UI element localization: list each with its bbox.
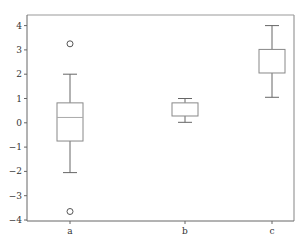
box-iqr [259, 49, 285, 73]
y-tick-label: 2 [16, 69, 22, 79]
y-tick-label: 0 [16, 118, 22, 128]
y-axis: −4−3−2−101234 [9, 21, 27, 225]
y-tick-label: −1 [9, 142, 22, 152]
y-tick-label: −3 [9, 191, 23, 201]
y-tick-label: 1 [16, 94, 22, 104]
outlier-point [67, 208, 73, 214]
y-tick-label: 4 [16, 21, 22, 31]
y-tick-label: −4 [9, 215, 23, 225]
boxplot-chart: −4−3−2−101234 abc [0, 0, 304, 250]
box-a [57, 41, 83, 215]
y-tick-label: 3 [16, 45, 22, 55]
box-iqr [57, 103, 83, 141]
box-series [57, 26, 285, 215]
x-axis: abc [67, 221, 274, 236]
x-tick-label: a [67, 226, 73, 236]
box-iqr [172, 103, 198, 116]
outlier-point [67, 41, 73, 47]
box-c [259, 26, 285, 98]
x-tick-label: b [182, 226, 188, 236]
x-tick-label: c [269, 226, 274, 236]
y-tick-label: −2 [9, 166, 22, 176]
box-b [172, 99, 198, 123]
